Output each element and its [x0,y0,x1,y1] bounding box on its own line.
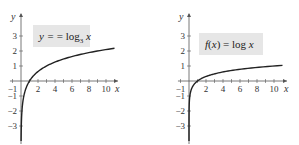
charts-canvas: y = = log3 x−1246810321−1−2−3xy f(x) = l… [0,0,299,145]
x-tick-label: 2 [36,84,41,94]
y-axis-arrow-icon [187,13,191,17]
y-tick-label: −2 [7,106,17,116]
y-axis-arrow-icon [19,13,23,17]
y-tick-label: −3 [175,121,185,131]
y-tick-label: −2 [175,106,185,116]
y-tick-label: 3 [13,31,18,41]
x-axis-label: x [114,83,120,94]
x-tick-label: 10 [270,84,280,94]
y-tick-label: 1 [13,61,18,71]
y-axis-label: y [178,11,184,22]
x-tick-label: 8 [87,84,92,94]
y-tick-label: 2 [13,46,18,56]
x-tick-label: 2 [204,84,209,94]
x-tick-label: 4 [221,84,226,94]
log-curve [189,65,283,141]
chart-log-base-3: y = = log3 x−1246810321−1−2−3xy [7,11,120,144]
y-tick-label: −1 [7,91,17,101]
equation-label: f(x) = log x [205,38,254,51]
x-tick-label: 8 [255,84,260,94]
log-curve [21,48,114,141]
x-axis-label: x [283,83,289,94]
x-tick-label: 4 [53,84,58,94]
x-tick-label: 6 [70,84,75,94]
y-tick-label: −1 [175,91,185,101]
x-tick-label: 10 [102,84,112,94]
y-tick-label: 1 [181,61,186,71]
y-tick-label: 3 [181,31,186,41]
y-axis-label: y [10,11,16,22]
x-tick-label: 6 [238,84,243,94]
y-tick-label: 2 [181,46,186,56]
chart-common-log: f(x) = log x−1246810321−1−2−3xy [175,11,289,144]
y-tick-label: −3 [7,121,17,131]
